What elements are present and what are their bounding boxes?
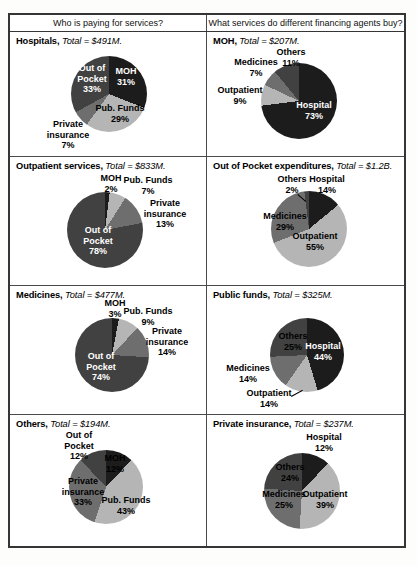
chart-cell-medicines: Medicines, Total = $477M.MOH 3%Pub. Fund…	[10, 286, 207, 415]
slice-label-moh: MOH 12%	[105, 453, 126, 474]
chart-title-public-funds: Public funds, Total = $325M.	[213, 290, 333, 300]
figure-table: Who is paying for services? What service…	[8, 13, 406, 548]
chart-title-outpatient-services: Outpatient services, Total = $833M.	[16, 161, 165, 171]
slice-label-others: Others 25%	[278, 331, 307, 352]
chart-title-out-of-pocket: Out of Pocket expenditures, Total = $1.2…	[213, 161, 392, 171]
slice-label-out-of-pocket: Out of Pocket 12%	[64, 430, 94, 462]
table-header-row: Who is paying for services? What service…	[10, 15, 404, 32]
slice-label-medicines: Medicines 29%	[263, 211, 307, 232]
chart-cell-hospitals: Hospitals, Total = $491M.MOH 31%Pub. Fun…	[10, 32, 207, 157]
column-header-left: Who is paying for services?	[10, 15, 207, 31]
chart-cell-private-insurance: Private insurance, Total = $237M.Hospita…	[207, 415, 404, 546]
slice-label-private-insurance: Private insurance 33%	[62, 476, 105, 508]
figure-page: Who is paying for services? What service…	[0, 0, 417, 566]
chart-title-hospitals: Hospitals, Total = $491M.	[16, 36, 122, 46]
column-header-right: What services do different financing age…	[207, 15, 404, 31]
chart-cell-others: Others, Total = $194M.MOH 12%Pub. Funds …	[10, 415, 207, 546]
slice-label-out-of-pocket: Out of Pocket 33%	[77, 63, 107, 95]
slice-label-private-insurance: Private insurance 13%	[144, 198, 187, 230]
slice-label-others: Others 24%	[275, 462, 304, 483]
slice-label-private-insurance: Private insurance 14%	[146, 326, 189, 358]
slice-label-medicines: Medicines 7%	[234, 57, 278, 78]
slice-label-outpatient: Outpatient 9%	[218, 85, 263, 106]
slice-label-pub-funds: Pub. Funds 9%	[124, 306, 173, 327]
chart-cell-outpatient-services: Outpatient services, Total = $833M.MOH 2…	[10, 157, 207, 286]
slice-label-hospital: Hospital 12%	[306, 432, 342, 453]
slice-label-moh: MOH 31%	[116, 66, 137, 87]
slice-label-out-of-pocket: Out of Pocket 78%	[83, 225, 113, 257]
slice-label-outpatient: Outpatient 55%	[293, 231, 338, 252]
slice-label-out-of-pocket: Out of Pocket 74%	[86, 351, 116, 383]
slice-label-others: Others 11%	[276, 47, 305, 68]
chart-title-private-insurance: Private insurance, Total = $237M.	[213, 419, 354, 429]
slice-label-pub-funds: Pub. Funds 29%	[96, 103, 145, 124]
slice-label-moh: MOH 3%	[105, 298, 126, 319]
slice-label-outpatient: Outpatient 39%	[303, 489, 348, 510]
slice-label-others: Others 2%	[277, 174, 306, 195]
chart-title-others: Others, Total = $194M.	[16, 419, 110, 429]
slice-label-hospital: Hospital 44%	[305, 341, 341, 362]
leader-line-outpatient	[291, 390, 302, 397]
chart-cell-out-of-pocket: Out of Pocket expenditures, Total = $1.2…	[207, 157, 404, 286]
slice-label-pub-funds: Pub. Funds 43%	[102, 495, 151, 516]
slice-label-hospital: Hospital 14%	[309, 174, 345, 195]
slice-label-pub-funds: Pub. Funds 7%	[124, 175, 173, 196]
chart-title-moh: MOH, Total = $207M.	[213, 36, 299, 46]
chart-grid: Hospitals, Total = $491M.MOH 31%Pub. Fun…	[10, 32, 404, 546]
slice-label-moh: MOH 2%	[101, 173, 122, 194]
slice-label-private-insurance: Private insurance 7%	[47, 119, 90, 151]
chart-cell-moh: MOH, Total = $207M.Hospital 73%Outpatien…	[207, 32, 404, 157]
chart-cell-public-funds: Public funds, Total = $325M.Hospital 44%…	[207, 286, 404, 415]
slice-label-outpatient: Outpatient 14%	[247, 388, 292, 409]
slice-label-medicines: Medicines 14%	[226, 363, 270, 384]
slice-label-medicines: Medicines 25%	[262, 489, 306, 510]
slice-label-hospital: Hospital 73%	[296, 100, 332, 121]
